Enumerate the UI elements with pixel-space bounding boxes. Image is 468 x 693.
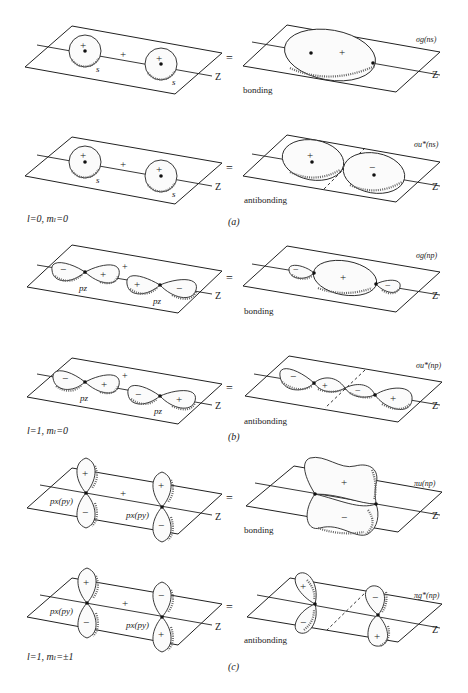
- lobe-sign: −: [372, 591, 378, 603]
- mo-label: σu*(ns): [414, 140, 439, 149]
- quantum-numbers-label: l=1, mₗ=0: [27, 425, 68, 436]
- axis-label: Z: [215, 181, 221, 192]
- panel-a-row1-left: + + + s s Z: [25, 26, 222, 94]
- lobe-sign: −: [135, 388, 141, 400]
- lobe-sign: −: [293, 264, 299, 275]
- orbital-label: pz: [79, 393, 89, 403]
- panel-b-row1-right: − + − σg(np) Z bonding: [243, 246, 440, 316]
- nucleus: [376, 613, 380, 617]
- axis-label: Z: [432, 510, 438, 521]
- panel-caption-c: (c): [228, 661, 240, 673]
- plane: [27, 358, 222, 424]
- axis-label: Z: [432, 624, 438, 635]
- lobe-sign: +: [101, 378, 107, 390]
- nucleus: [160, 505, 164, 509]
- lobe-sign: −: [82, 506, 88, 518]
- panel-a-row2-left: + + + s s Z: [25, 137, 222, 204]
- type-label: bonding: [244, 525, 274, 535]
- mo-label: σg(ns): [416, 35, 437, 44]
- nodal-plane-dashed: [327, 590, 368, 630]
- orbital-label: px(py): [125, 620, 149, 630]
- lobe-sign: −: [62, 372, 68, 384]
- equals-sign: =: [226, 161, 233, 175]
- combine-sign: +: [122, 261, 128, 272]
- nucleus: [373, 393, 377, 397]
- orbital-label: px(py): [49, 496, 73, 506]
- nucleus: [312, 271, 316, 275]
- axis-label: Z: [432, 181, 438, 192]
- equals-sign: =: [226, 51, 233, 65]
- equals-sign: =: [226, 381, 233, 395]
- lobe-sign: −: [60, 263, 66, 275]
- nucleus: [374, 502, 378, 506]
- panel-a-row2-right: + − σu*(ns) Z antibonding: [243, 135, 440, 205]
- type-label: antibonding: [244, 195, 287, 205]
- nucleus: [313, 492, 317, 496]
- nucleus: [313, 602, 317, 606]
- axis-label: Z: [215, 400, 221, 411]
- lobe-sign: −: [369, 161, 375, 173]
- equals-sign: =: [226, 271, 233, 285]
- panel-b-row1-left: − + + − + pz pz Z: [27, 245, 222, 313]
- lobe-sign: −: [300, 616, 306, 628]
- nucleus: [83, 380, 87, 384]
- lobe-sign: −: [83, 616, 89, 628]
- orbital-label: s: [96, 175, 100, 185]
- panel-c-row2-right: + − − + πg*(np) Z antibonding: [244, 573, 442, 646]
- lobe-sign: +: [307, 149, 313, 161]
- molecular-orbital-diagram: + + + s s Z = + σg(ns) Z bonding + + + s…: [0, 0, 468, 693]
- lobe-sign: +: [156, 52, 162, 64]
- lobe-sign: +: [80, 39, 86, 51]
- mo-label: σu*(np): [416, 361, 442, 370]
- lobe-sign: +: [390, 392, 396, 404]
- lobe-sign: +: [80, 149, 86, 161]
- quantum-numbers-label: l=1, mₗ=±1: [27, 651, 73, 662]
- lobe-sign: −: [385, 280, 391, 291]
- lobe-sign: +: [340, 271, 346, 283]
- combine-sign: +: [120, 487, 126, 499]
- lobe-sign: −: [158, 519, 164, 531]
- orbital-label: pz: [78, 283, 88, 293]
- lobe-sign: −: [290, 370, 296, 382]
- orbital-label: pz: [152, 296, 162, 306]
- combine-sign: +: [122, 370, 128, 381]
- axis-label: Z: [215, 621, 221, 632]
- equals-sign: =: [226, 491, 233, 505]
- axis-label: Z: [215, 290, 221, 301]
- lobe-sign: −: [176, 282, 182, 294]
- nucleus: [371, 61, 375, 65]
- panel-c-row1-right: + − πu(np) Z bonding: [244, 457, 442, 535]
- orbital-label: s: [96, 64, 100, 74]
- lobe-sign: +: [322, 380, 328, 391]
- panel-c-row2-left: + − − + + px(py) px(py) Z: [27, 568, 222, 652]
- nucleus: [83, 270, 87, 274]
- lobe-sign: +: [134, 278, 140, 290]
- orbital-label: px(py): [125, 510, 149, 520]
- lobe-sign: −: [158, 589, 164, 601]
- panel-b-row2-right: − + − + σu*(np) Z antibonding: [244, 356, 442, 426]
- orbital-label: s: [172, 189, 176, 199]
- orbital-label: s: [172, 77, 176, 87]
- lobe-sign: −: [341, 511, 347, 523]
- quantum-numbers-label: l=0, mₗ=0: [27, 213, 68, 224]
- axis-label: Z: [432, 400, 438, 411]
- orbital-label: pz: [153, 406, 163, 416]
- type-label: antibonding: [244, 635, 287, 645]
- panel-c-row1-left: + − + − + px(py) px(py) Z: [27, 458, 222, 542]
- nucleus: [158, 283, 162, 287]
- combine-sign: +: [120, 158, 126, 170]
- nucleus: [372, 173, 376, 177]
- lobe-sign: +: [158, 479, 164, 491]
- nucleus: [309, 51, 313, 55]
- nucleus: [374, 282, 378, 286]
- lobe-sign: +: [339, 46, 345, 58]
- axis-label: Z: [215, 511, 221, 522]
- nucleus: [160, 615, 164, 619]
- mo-label: πu(np): [414, 479, 436, 488]
- panel-caption-b: (b): [228, 431, 240, 443]
- panel-caption-a: (a): [228, 216, 240, 228]
- type-label: bonding: [243, 85, 273, 95]
- orbital-label: px(py): [49, 606, 73, 616]
- lobe-sign: +: [100, 268, 106, 280]
- axis-label: Z: [432, 69, 438, 80]
